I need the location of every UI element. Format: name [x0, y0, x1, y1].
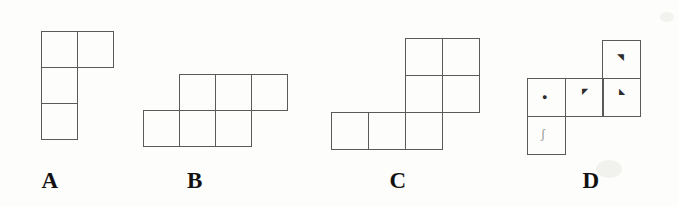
net-cell — [179, 74, 216, 111]
net-cell — [331, 112, 369, 150]
net-cell — [442, 38, 480, 76]
net-cell — [251, 74, 288, 111]
cell-mark: ◤ — [582, 88, 588, 96]
option-group-c[interactable] — [331, 38, 486, 153]
net-cell — [215, 74, 252, 111]
net-cell: ʃ — [527, 116, 566, 155]
net-cell: ◥ — [602, 40, 641, 79]
option-group-b[interactable] — [143, 74, 293, 154]
option-label-b: B — [180, 168, 210, 194]
net-cell — [77, 31, 114, 68]
net-cell: ◣ — [602, 78, 641, 117]
cell-mark: ● — [542, 93, 547, 102]
net-cell — [41, 67, 78, 104]
cell-mark: ◣ — [619, 88, 625, 96]
net-cell — [405, 112, 443, 150]
option-label-c: C — [383, 168, 413, 194]
cell-mark: ʃ — [541, 128, 545, 140]
net-cell — [179, 110, 216, 147]
net-cell — [405, 75, 443, 113]
net-cell — [405, 38, 443, 76]
net-cell — [442, 75, 480, 113]
net-cell — [215, 110, 252, 147]
option-group-d[interactable]: ◥ ● ◤ ◣ ʃ — [527, 40, 652, 160]
option-group-a[interactable] — [41, 31, 121, 147]
figure-canvas: A B C ◥ ● ◤ ◣ ʃ D — [0, 0, 678, 206]
option-label-a: A — [35, 168, 65, 194]
net-cell — [41, 31, 78, 68]
option-label-d: D — [576, 168, 606, 194]
net-cell: ◤ — [565, 78, 604, 117]
net-cell — [41, 103, 78, 140]
cell-mark: ◥ — [617, 53, 624, 62]
net-cell — [368, 112, 406, 150]
paper-speck — [660, 12, 674, 22]
net-cell: ● — [527, 78, 566, 117]
net-cell — [143, 110, 180, 147]
